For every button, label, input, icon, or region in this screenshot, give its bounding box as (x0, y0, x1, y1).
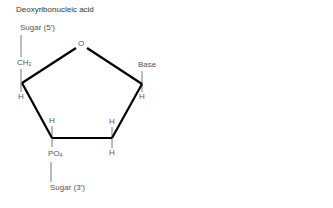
bond-right-to-bottom-right (112, 84, 142, 138)
bond-oxygen-to-right (87, 48, 142, 84)
label-h-bottom-right-top: H (109, 118, 115, 126)
po4-subscript: 4 (60, 152, 63, 158)
label-base: Base (138, 61, 156, 69)
label-sugar-3-prime: Sugar (3′) (50, 184, 85, 192)
label-h-bottom-left-top: H (49, 117, 55, 125)
label-h-right: H (139, 93, 145, 101)
diagram-title: Deoxyribonucleic acid (16, 6, 94, 14)
bond-bottom-left-to-left (22, 83, 52, 138)
deoxyribose-diagram: Deoxyribonucleic acid Sugar (5′) CH2 O B… (0, 0, 333, 208)
ch2-main: CH (17, 58, 29, 67)
label-ch2: CH2 (17, 59, 31, 67)
label-sugar-5-prime: Sugar (5′) (20, 24, 55, 32)
label-po4: PO4 (48, 150, 62, 158)
label-h-bottom-right-bottom: H (109, 149, 115, 157)
po4-main: PO (48, 149, 60, 158)
label-ring-oxygen: O (78, 40, 84, 48)
ch2-subscript: 2 (29, 61, 32, 67)
label-h-left: H (18, 93, 24, 101)
